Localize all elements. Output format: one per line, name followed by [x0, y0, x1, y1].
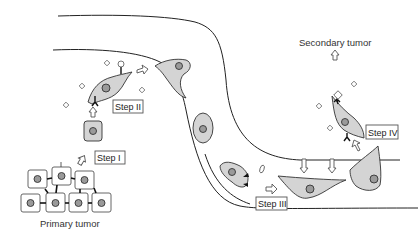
- step-3-label: Step III: [258, 199, 287, 209]
- step-4-label: Step IV: [368, 128, 398, 138]
- arrow-up-icon: [331, 50, 339, 60]
- arrow-right-icon: [137, 65, 148, 74]
- intravasating-cell: [155, 59, 190, 98]
- step-2-label: Step II: [115, 102, 141, 112]
- arrow-up-icon: [352, 140, 360, 151]
- detached-tumor-cell: [84, 107, 102, 141]
- arrow-up-icon: [89, 107, 97, 117]
- step-1: Step I: [76, 151, 125, 166]
- arrow-up-icon: [76, 154, 88, 167]
- step-1-label: Step I: [97, 153, 121, 163]
- arrow-down-icon: [300, 159, 308, 173]
- extravasating-cell: [350, 140, 381, 190]
- circulating-cell: [193, 113, 213, 143]
- primary-tumor-cluster: Primary tumor: [21, 162, 111, 229]
- step-2: Step II: [88, 61, 148, 113]
- step-4: Step IV: [332, 91, 398, 141]
- adhering-cell: [278, 159, 346, 198]
- metastasis-diagram: Primary tumor Step I Step II: [0, 0, 418, 235]
- primary-tumor-label: Primary tumor: [40, 218, 100, 229]
- secondary-tumor: Secondary tumor: [299, 37, 371, 60]
- secondary-tumor-label: Secondary tumor: [299, 37, 371, 48]
- arrow-down-icon: [328, 159, 336, 173]
- arrow-right-icon: [266, 184, 277, 194]
